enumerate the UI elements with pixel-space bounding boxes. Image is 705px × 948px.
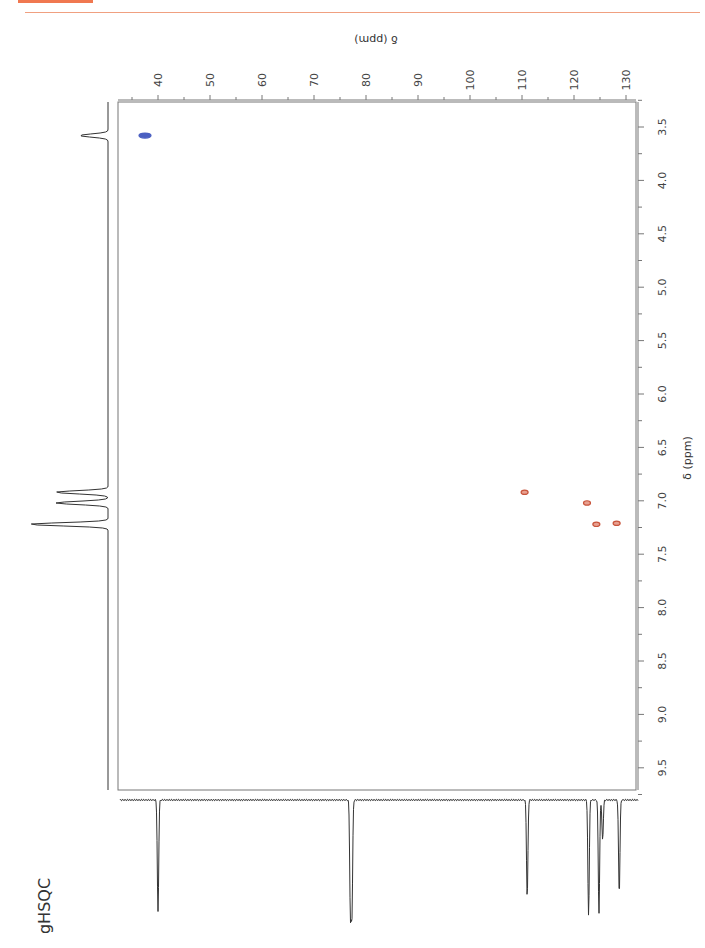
svg-text:80: 80 [360,73,373,87]
x-axis-title: δ (ppm) [354,33,398,46]
cross-peak [521,490,528,494]
svg-text:100: 100 [464,70,477,91]
svg-text:5.5: 5.5 [656,332,669,350]
svg-text:9.5: 9.5 [656,759,669,777]
proton-projection [31,102,108,790]
svg-text:8.5: 8.5 [656,652,669,670]
cross-peaks [139,133,620,526]
svg-text:7.0: 7.0 [656,492,669,510]
experiment-title: gHSQC [35,878,54,934]
svg-text:3.5: 3.5 [656,118,669,136]
carbon-projection [120,799,638,923]
cross-peak [139,133,151,138]
svg-text:8.0: 8.0 [656,599,669,617]
svg-text:5.0: 5.0 [656,278,669,296]
svg-text:50: 50 [204,73,217,87]
svg-text:90: 90 [412,73,425,87]
svg-text:6.0: 6.0 [656,385,669,403]
svg-text:60: 60 [256,73,269,87]
svg-text:4.0: 4.0 [656,172,669,190]
svg-text:9.0: 9.0 [656,706,669,724]
svg-text:120: 120 [568,70,581,91]
cross-peak [593,522,600,526]
svg-text:40: 40 [152,73,165,87]
svg-text:7.5: 7.5 [656,545,669,563]
x-axis-ticks: 405060708090100110120130 [118,70,636,101]
y-axis-ticks: 3.54.04.55.05.56.06.57.07.58.08.59.09.5 [638,100,669,794]
cross-peak [584,501,591,505]
y-axis-title: δ (ppm) [681,436,694,480]
svg-text:6.5: 6.5 [656,439,669,457]
svg-text:130: 130 [620,70,633,91]
cross-peak [613,521,620,525]
svg-text:110: 110 [516,70,529,91]
plot-frame [118,102,636,790]
svg-text:4.5: 4.5 [656,225,669,243]
svg-text:70: 70 [308,73,321,87]
hsqc-chart: δ (ppm) 405060708090100110120130 3.54.04… [0,0,705,948]
